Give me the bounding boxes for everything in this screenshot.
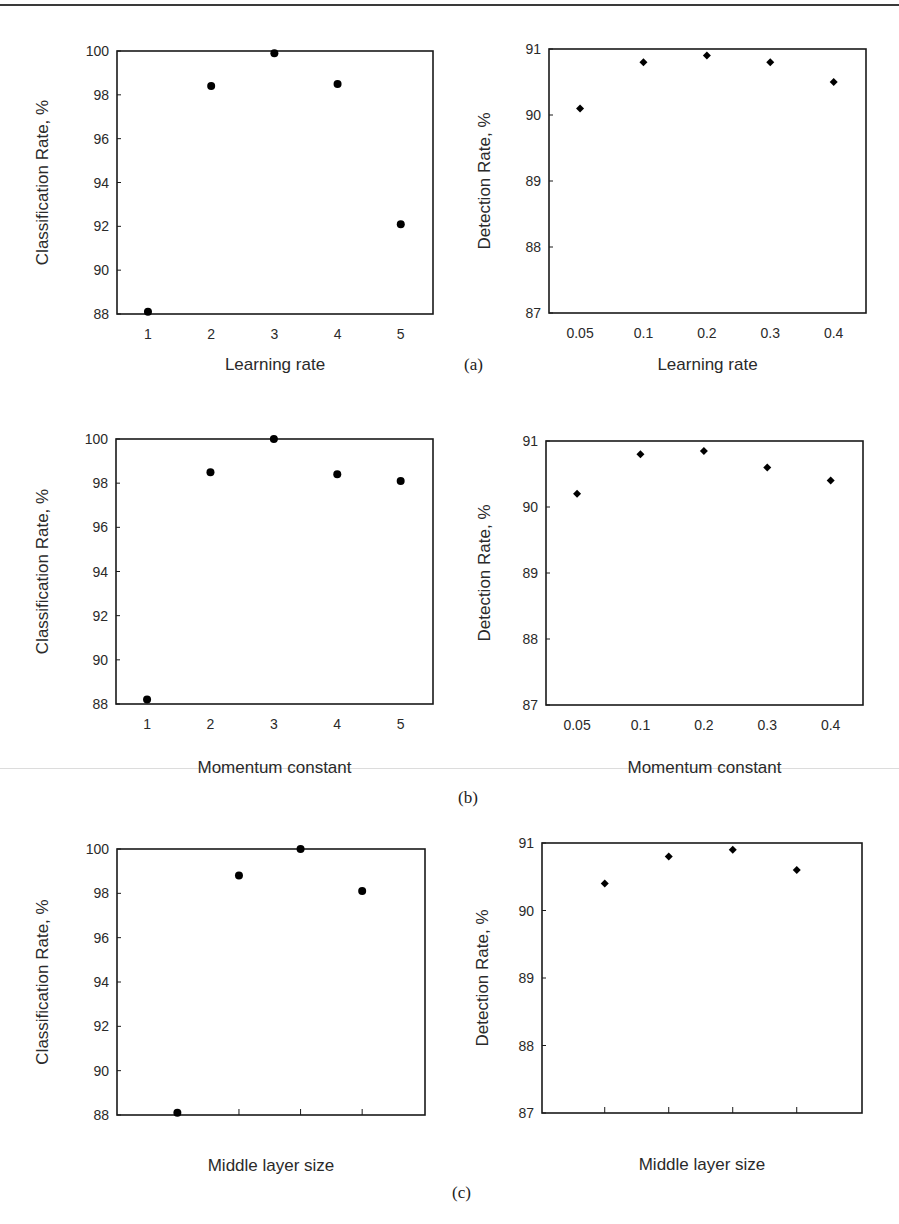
plot-a-left: 88909294969810012345Learning rateClassif… <box>33 43 433 374</box>
x-tick-label: 3 <box>270 716 278 732</box>
plot-c-left: 889092949698100Middle layer sizeClassifi… <box>33 841 425 1175</box>
plot-frame <box>542 843 862 1113</box>
data-point-circle <box>334 80 342 88</box>
data-point-circle <box>143 696 151 704</box>
y-tick-label: 91 <box>522 433 538 449</box>
x-tick-label: 4 <box>334 326 342 342</box>
data-point-diamond <box>636 450 644 458</box>
data-point-circle <box>397 477 405 485</box>
plot-b-right: 87888990910.050.10.20.30.4Momentum const… <box>475 433 863 777</box>
y-tick-label: 88 <box>93 306 109 322</box>
data-point-circle <box>207 82 215 90</box>
x-tick-label: 0.3 <box>761 325 781 341</box>
x-tick-label: 0.1 <box>631 717 651 733</box>
x-axis-label: Learning rate <box>225 355 325 374</box>
y-tick-label: 92 <box>93 1018 109 1034</box>
plot-frame <box>546 441 863 705</box>
panel-label-b: (b) <box>458 788 478 808</box>
data-point-circle <box>144 308 152 316</box>
data-point-diamond <box>827 477 835 485</box>
y-tick-label: 91 <box>518 835 534 851</box>
y-tick-label: 87 <box>525 305 541 321</box>
x-tick-label: 0.3 <box>758 717 778 733</box>
data-point-circle <box>270 49 278 57</box>
y-tick-label: 100 <box>86 43 110 59</box>
x-tick-label: 4 <box>333 716 341 732</box>
y-tick-label: 96 <box>92 519 108 535</box>
y-tick-label: 90 <box>525 107 541 123</box>
x-tick-label: 0.4 <box>824 325 844 341</box>
x-tick-label: 5 <box>397 716 405 732</box>
plot-frame <box>117 51 433 314</box>
y-axis-label: Detection Rate, % <box>473 909 492 1046</box>
y-axis-label: Detection Rate, % <box>475 112 494 249</box>
x-tick-label: 0.05 <box>563 717 590 733</box>
y-tick-label: 88 <box>525 239 541 255</box>
y-tick-label: 90 <box>93 1063 109 1079</box>
data-point-circle <box>206 468 214 476</box>
y-tick-label: 100 <box>85 431 109 447</box>
data-point-diamond <box>703 52 711 60</box>
y-tick-label: 90 <box>522 499 538 515</box>
data-point-circle <box>358 887 366 895</box>
data-point-diamond <box>766 58 774 66</box>
data-point-diamond <box>700 447 708 455</box>
y-tick-label: 92 <box>93 218 109 234</box>
x-axis-label: Middle layer size <box>639 1155 766 1174</box>
y-tick-label: 96 <box>93 930 109 946</box>
data-point-diamond <box>793 866 801 874</box>
data-point-diamond <box>573 490 581 498</box>
x-tick-label: 2 <box>207 716 215 732</box>
x-tick-label: 0.4 <box>821 717 841 733</box>
y-tick-label: 87 <box>518 1105 534 1121</box>
y-tick-label: 88 <box>93 1107 109 1123</box>
data-point-circle <box>297 845 305 853</box>
x-tick-label: 3 <box>270 326 278 342</box>
y-tick-label: 88 <box>92 696 108 712</box>
x-tick-label: 0.05 <box>566 325 593 341</box>
y-axis-label: Classification Rate, % <box>33 100 52 265</box>
x-axis-label: Learning rate <box>657 355 757 374</box>
y-axis-label: Classification Rate, % <box>33 899 52 1064</box>
x-axis-label: Middle layer size <box>208 1156 335 1175</box>
x-axis-label: Momentum constant <box>627 758 781 777</box>
y-tick-label: 94 <box>92 564 108 580</box>
panel-label-a: (a) <box>464 355 483 375</box>
data-point-diamond <box>665 853 673 861</box>
data-point-circle <box>173 1109 181 1117</box>
y-tick-label: 87 <box>522 697 538 713</box>
plot-a-right: 87888990910.050.10.20.30.4Learning rateD… <box>475 41 866 374</box>
data-point-diamond <box>763 463 771 471</box>
y-tick-label: 90 <box>92 652 108 668</box>
y-tick-label: 90 <box>93 262 109 278</box>
y-tick-label: 90 <box>518 903 534 919</box>
data-point-circle <box>397 220 405 228</box>
plot-frame <box>549 49 866 313</box>
y-tick-label: 94 <box>93 175 109 191</box>
panel-label-c: (c) <box>452 1183 471 1203</box>
plot-b-left: 88909294969810012345Momentum constantCla… <box>33 431 433 777</box>
data-point-diamond <box>639 58 647 66</box>
data-point-circle <box>333 470 341 478</box>
y-tick-label: 88 <box>518 1038 534 1054</box>
y-axis-label: Detection Rate, % <box>475 504 494 641</box>
figure-canvas: 88909294969810012345Learning rateClassif… <box>0 0 899 1224</box>
x-tick-label: 0.2 <box>694 717 714 733</box>
y-axis-label: Classification Rate, % <box>33 489 52 654</box>
y-tick-label: 96 <box>93 131 109 147</box>
x-tick-label: 1 <box>143 716 151 732</box>
plot-c-right: 8788899091Middle layer sizeDetection Rat… <box>473 835 862 1174</box>
plot-frame <box>117 849 425 1115</box>
y-tick-label: 98 <box>93 87 109 103</box>
data-point-circle <box>235 872 243 880</box>
y-tick-label: 89 <box>518 970 534 986</box>
y-tick-label: 98 <box>92 475 108 491</box>
y-tick-label: 89 <box>522 565 538 581</box>
y-tick-label: 89 <box>525 173 541 189</box>
y-tick-label: 88 <box>522 631 538 647</box>
data-point-circle <box>270 435 278 443</box>
data-point-diamond <box>830 78 838 86</box>
y-tick-label: 91 <box>525 41 541 57</box>
x-tick-label: 5 <box>397 326 405 342</box>
x-tick-label: 2 <box>207 326 215 342</box>
